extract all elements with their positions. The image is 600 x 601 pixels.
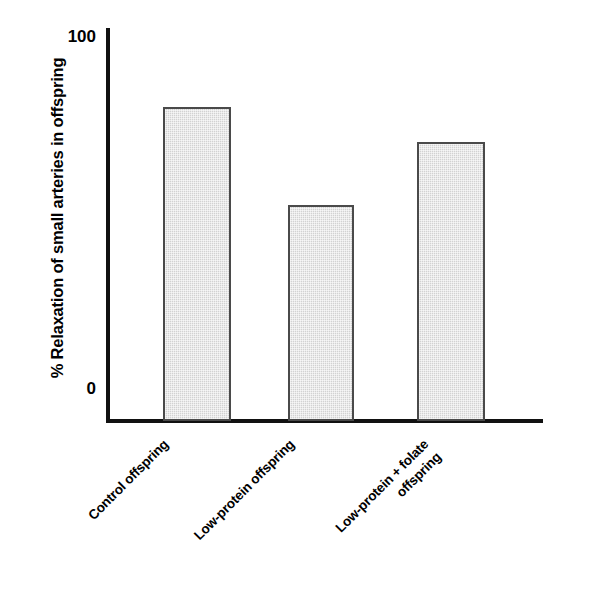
- cat-label-1-line1: Low-protein offspring: [191, 437, 297, 543]
- bar-chart-figure: % Relaxation of small arteries in offspr…: [0, 0, 600, 601]
- y-axis-tick-100: 100: [34, 27, 96, 47]
- bar-low-protein-folate-offspring: [417, 142, 485, 421]
- bar-low-protein-offspring: [288, 205, 354, 421]
- bar-control-offspring: [163, 107, 231, 421]
- plot-area: [108, 28, 543, 421]
- y-axis-tick-0: 0: [34, 379, 96, 399]
- y-axis-title: % Relaxation of small arteries in offspr…: [42, 18, 72, 418]
- cat-label-0-line1: Control offspring: [85, 437, 171, 523]
- x-axis-category-label-low-protein-folate-offspring: Low-protein + folate offspring: [264, 436, 445, 601]
